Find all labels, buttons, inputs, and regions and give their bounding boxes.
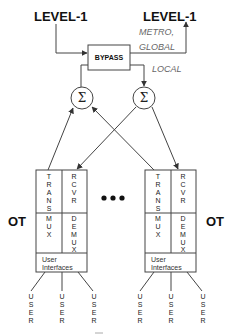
right-trans-to-left-sum-arrow — [92, 107, 154, 170]
svg-text:M: M — [155, 215, 161, 222]
user-label: U S E R — [200, 293, 205, 324]
svg-text:S: S — [169, 301, 174, 308]
svg-text:R: R — [180, 173, 185, 180]
user-link-line — [31, 272, 45, 291]
svg-text:S: S — [60, 301, 65, 308]
svg-text:E: E — [72, 223, 77, 230]
svg-text:V: V — [72, 189, 77, 196]
bypass-label: BYPASS — [95, 54, 124, 61]
user-interfaces-label: Interfaces — [42, 264, 73, 271]
svg-text:R: R — [28, 317, 33, 324]
svg-text:D: D — [180, 215, 185, 222]
right-ot-label: OT — [206, 214, 224, 229]
trans-label: T R A N S — [155, 173, 160, 212]
user-link-line — [78, 272, 93, 291]
svg-text:S: S — [201, 301, 206, 308]
svg-text:R: R — [71, 197, 76, 204]
user-label: U S E R — [137, 293, 142, 324]
svg-text:U: U — [180, 239, 185, 246]
demux-label: D E M U X — [180, 215, 186, 253]
svg-text:T: T — [156, 173, 161, 180]
svg-text:N: N — [155, 197, 160, 204]
bypass-box: BYPASS — [88, 45, 130, 70]
local-label: LOCAL — [152, 64, 182, 74]
svg-text:S: S — [92, 301, 97, 308]
svg-text:R: R — [91, 317, 96, 324]
svg-text:R: R — [46, 181, 51, 188]
svg-text:V: V — [181, 189, 186, 196]
svg-text:U: U — [137, 293, 142, 300]
svg-text:E: E — [60, 309, 65, 316]
local-line — [130, 65, 144, 86]
rcvr-label: R C V R — [71, 173, 76, 204]
svg-text:U: U — [46, 223, 51, 230]
user-label: U S E R — [59, 293, 64, 324]
svg-text:U: U — [155, 223, 160, 230]
rcvr-label: R C V R — [180, 173, 185, 204]
svg-text:M: M — [46, 215, 52, 222]
left-ot-label: OT — [8, 214, 26, 229]
svg-text:M: M — [180, 231, 186, 238]
svg-text:X: X — [156, 231, 161, 238]
user-link-line — [187, 272, 202, 291]
user-interfaces-label: User — [151, 256, 166, 263]
level1-output-label: LEVEL-1 — [143, 9, 196, 24]
svg-text:E: E — [29, 309, 34, 316]
svg-text:S: S — [138, 301, 143, 308]
svg-text:C: C — [71, 181, 76, 188]
svg-text:M: M — [71, 231, 77, 238]
svg-text:U: U — [200, 293, 205, 300]
svg-text:A: A — [47, 189, 52, 196]
right-summer: Σ — [133, 87, 155, 109]
right-optical-terminal: T R A N S M U X R C V R D E M U X User I… — [145, 170, 196, 272]
right-sum-to-right-rcvr-arrow — [152, 107, 178, 169]
mux-label: M U X — [46, 215, 52, 238]
svg-text:U: U — [59, 293, 64, 300]
svg-text:T: T — [47, 173, 52, 180]
svg-text:R: R — [180, 197, 185, 204]
network-diagram: LEVEL-1 LEVEL-1 BYPASS METRO, GLOBAL LOC… — [0, 0, 234, 335]
trans-label: T R A N S — [46, 173, 51, 212]
svg-text:R: R — [200, 317, 205, 324]
right-sum-to-left-rcvr-arrow — [77, 107, 136, 169]
sigma-icon: Σ — [78, 91, 86, 105]
svg-text:X: X — [72, 246, 77, 253]
metro-label: METRO, — [139, 27, 174, 37]
user-label: U S E R — [168, 293, 173, 324]
svg-text:S: S — [29, 301, 34, 308]
svg-text:U: U — [71, 239, 76, 246]
user-interfaces-label: Interfaces — [151, 264, 182, 271]
svg-text:E: E — [169, 309, 174, 316]
left-optical-terminal: T R A N S M U X R C V R D E M U X User I… — [36, 170, 87, 272]
user-interfaces-label: User — [42, 256, 57, 263]
user-label: U S E R — [91, 293, 96, 324]
svg-text:U: U — [28, 293, 33, 300]
svg-text:E: E — [138, 309, 143, 316]
svg-text:R: R — [137, 317, 142, 324]
svg-text:C: C — [180, 181, 185, 188]
demux-label: D E M U X — [71, 215, 77, 253]
svg-text:N: N — [46, 197, 51, 204]
svg-text:S: S — [156, 205, 161, 212]
sigma-icon: Σ — [140, 91, 148, 105]
level1-input-line — [56, 24, 87, 53]
svg-text:U: U — [168, 293, 173, 300]
left-summer: Σ — [71, 87, 93, 109]
svg-text:A: A — [156, 189, 161, 196]
svg-text:E: E — [92, 309, 97, 316]
svg-text:R: R — [71, 173, 76, 180]
user-label: U S E R — [28, 293, 33, 324]
svg-text:D: D — [71, 215, 76, 222]
mux-label: M U X — [155, 215, 161, 238]
user-link-line — [140, 272, 154, 291]
left-trans-to-left-sum-arrow — [48, 108, 73, 170]
global-label: GLOBAL — [139, 42, 175, 52]
svg-text:E: E — [181, 223, 186, 230]
level1-input-label: LEVEL-1 — [34, 9, 87, 24]
svg-text:X: X — [181, 246, 186, 253]
svg-text:R: R — [168, 317, 173, 324]
svg-text:R: R — [59, 317, 64, 324]
svg-text:X: X — [47, 231, 52, 238]
svg-text:E: E — [201, 309, 206, 316]
svg-text:U: U — [91, 293, 96, 300]
